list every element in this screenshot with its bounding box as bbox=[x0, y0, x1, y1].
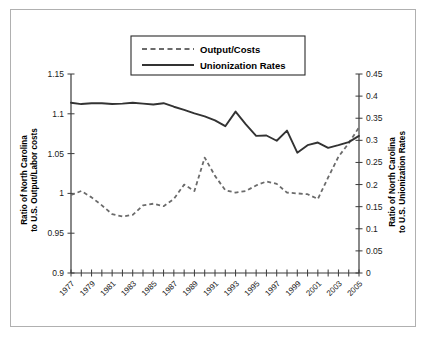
dual-axis-line-chart: Ratio of North Carolina to U.S. Output/L… bbox=[11, 10, 417, 328]
right-axis-tick-label: 0.45 bbox=[366, 69, 383, 79]
left-axis-tick-label: 0.95 bbox=[47, 228, 64, 238]
left-axis-tick-label: 1.05 bbox=[47, 149, 64, 159]
right-axis-title-line1: Ratio of North Carolina bbox=[388, 137, 397, 227]
x-axis-tick-label: 2003 bbox=[325, 279, 344, 298]
right-axis-tick-label: 0.25 bbox=[366, 157, 383, 167]
left-axis-tick-label: 1.1 bbox=[52, 109, 64, 119]
legend-label-output-costs: Output/Costs bbox=[200, 44, 260, 55]
x-axis-tick-label: 1995 bbox=[243, 279, 262, 298]
left-axis-title-line1: Ratio of North Carolina bbox=[20, 135, 29, 225]
legend-label-unionization-rates: Unionization Rates bbox=[200, 60, 286, 71]
x-axis-tick-label: 1977 bbox=[57, 279, 76, 298]
right-axis-tick-label: 0.1 bbox=[366, 224, 378, 234]
left-axis-title: Ratio of North Carolina to U.S. Output/L… bbox=[20, 128, 39, 232]
right-axis-tick-label: 0.4 bbox=[366, 91, 378, 101]
x-axis-tick-label: 2001 bbox=[304, 279, 323, 298]
x-axis-tick-label: 1991 bbox=[201, 279, 220, 298]
chart-plot-area: Ratio of North Carolina to U.S. Output/L… bbox=[11, 10, 417, 328]
x-axis-tick-label: 1987 bbox=[160, 279, 179, 298]
right-axis-tick-label: 0.15 bbox=[366, 202, 383, 212]
chart-figure: Ratio of North Carolina to U.S. Output/L… bbox=[10, 9, 416, 327]
x-axis-tick-label: 1989 bbox=[181, 279, 200, 298]
x-axis-tick-label: 1981 bbox=[99, 279, 118, 298]
x-axis-tick-label: 1999 bbox=[284, 279, 303, 298]
right-axis-tick-label: 0.3 bbox=[366, 135, 378, 145]
x-axis-tick-label: 1997 bbox=[263, 279, 282, 298]
left-axis-tick-label: 1.15 bbox=[47, 69, 64, 79]
x-axis-tick-labels: 1977197919811983198519871989199119931995… bbox=[57, 279, 364, 298]
left-axis-title-line2: to U.S. Output/Labor costs bbox=[30, 128, 39, 232]
left-axis-tick-labels: 0.90.9511.051.11.15 bbox=[47, 69, 64, 278]
x-axis-tick-label: 1985 bbox=[140, 279, 159, 298]
right-axis-title: Ratio of North Carolina to U.S. Unioniza… bbox=[388, 131, 407, 233]
series-line-output-costs bbox=[71, 127, 359, 216]
right-axis-tick-label: 0.05 bbox=[366, 246, 383, 256]
x-axis-tick-label: 1993 bbox=[222, 279, 241, 298]
series-group bbox=[71, 103, 359, 217]
right-axis-title-line2: to U.S. Unionization Rates bbox=[398, 131, 407, 233]
chart-legend: Output/Costs Unionization Rates bbox=[131, 36, 305, 75]
left-axis-tick-label: 1 bbox=[59, 188, 64, 198]
x-axis-tick-label: 1979 bbox=[78, 279, 97, 298]
right-axis-tick-label: 0.2 bbox=[366, 180, 378, 190]
right-axis-tick-label: 0 bbox=[366, 268, 371, 278]
x-axis-tick-label: 2005 bbox=[345, 279, 364, 298]
series-line-unionization-rates bbox=[71, 103, 359, 153]
right-axis-tick-label: 0.35 bbox=[366, 113, 383, 123]
right-axis-tick-labels: 00.050.10.150.20.250.30.350.40.45 bbox=[366, 69, 383, 278]
left-axis-tick-label: 0.9 bbox=[52, 268, 64, 278]
x-axis-tick-label: 1983 bbox=[119, 279, 138, 298]
